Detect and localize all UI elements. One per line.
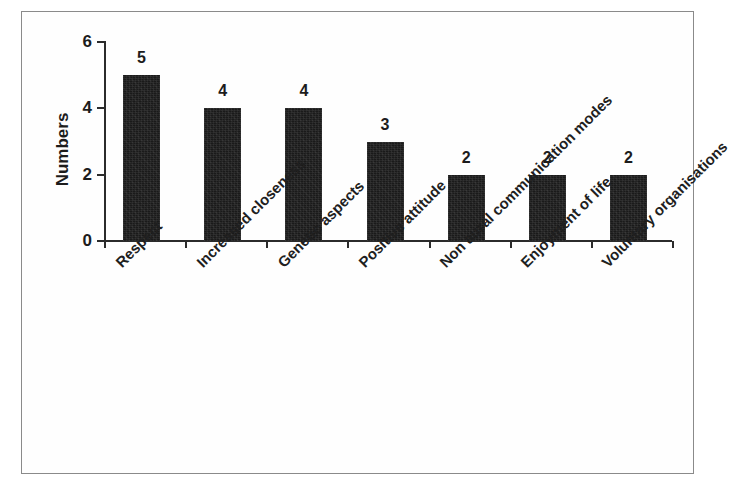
bar-value-label: 2 (598, 150, 658, 166)
bar[interactable] (123, 75, 160, 241)
x-axis-tick (591, 241, 593, 248)
y-axis-tick (97, 174, 104, 176)
bar-value-label: 3 (355, 117, 415, 133)
x-axis-tick (347, 241, 349, 248)
y-axis-tick-label: 0 (66, 232, 92, 249)
y-axis-tick-label: 6 (66, 33, 92, 50)
y-axis-line (104, 41, 106, 242)
bar-value-label: 4 (274, 83, 334, 99)
x-axis-tick (429, 241, 431, 248)
y-axis-tick (97, 107, 104, 109)
x-axis-tick (185, 241, 187, 248)
y-axis-tick (97, 41, 104, 43)
y-axis-tick-label: 4 (66, 99, 92, 116)
y-axis-tick (97, 240, 104, 242)
x-axis-tick (266, 241, 268, 248)
x-axis-tick (104, 241, 106, 248)
bar-value-label: 2 (436, 150, 496, 166)
x-axis-tick (672, 241, 674, 248)
bar-value-label: 5 (112, 50, 172, 66)
x-axis-tick (510, 241, 512, 248)
y-axis-tick-label: 2 (66, 166, 92, 183)
bar-value-label: 4 (193, 83, 253, 99)
